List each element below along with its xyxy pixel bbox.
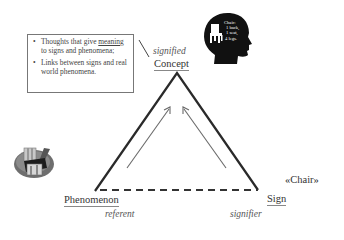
signified-label: signified <box>153 46 186 57</box>
head-thought-text: Chair: 1 back, 1 seat, 4 legs. <box>224 20 239 41</box>
sign-label: Sign <box>267 193 286 206</box>
phenomenon-label: Phenomenon <box>64 194 119 207</box>
concept-label: Concept <box>154 58 189 71</box>
sofa-object-icon <box>14 148 54 178</box>
signifier-label: signifier <box>230 209 262 220</box>
arrow-sign-to-concept <box>183 107 226 168</box>
note-item-meaning: • Thoughts that give meaning to signs an… <box>41 38 129 55</box>
bullet-icon: • <box>33 59 36 68</box>
sign-example-chair: «Chair» <box>285 174 319 186</box>
concept-description-box: • Thoughts that give meaning to signs an… <box>27 34 134 93</box>
bullet-icon: • <box>33 38 36 47</box>
box-connector-line <box>139 40 149 57</box>
referent-label: referent <box>105 209 134 220</box>
note-item-links: • Links between signs and real world phe… <box>41 59 129 76</box>
